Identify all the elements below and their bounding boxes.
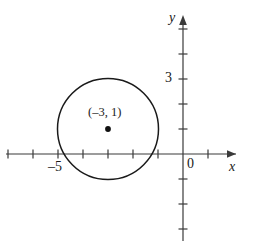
graph-canvas	[0, 0, 254, 246]
center-point-label: (–3, 1)	[88, 106, 121, 119]
x-axis-label: x	[229, 160, 235, 174]
y-axis-arrow-icon	[179, 15, 187, 25]
origin-tick-label: 0	[187, 157, 194, 171]
coordinate-plane-figure: y x 0 3 –5 (–3, 1)	[0, 0, 254, 246]
center-point-dot	[105, 126, 111, 132]
x-axis-arrow-icon	[227, 150, 236, 158]
y-tick-label-3: 3	[165, 71, 172, 85]
y-axis-label: y	[169, 11, 175, 25]
x-tick-label-neg5: –5	[48, 160, 62, 174]
